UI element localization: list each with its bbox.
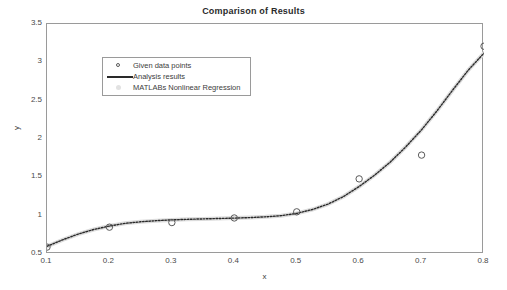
- x-tick-label: 0.7: [401, 257, 441, 265]
- x-tick-label: 0.5: [276, 257, 316, 265]
- faint-dot-marker-icon: [107, 82, 133, 93]
- legend-item-given-data-points[interactable]: Given data points: [103, 60, 250, 71]
- y-tick-label: 2.5: [8, 96, 42, 104]
- y-axis-tick-labels: 0.511.522.533.5: [4, 23, 42, 253]
- y-axis-label: y: [12, 126, 21, 130]
- x-tick-label: 0.4: [213, 257, 253, 265]
- y-tick-label: 1.5: [8, 172, 42, 180]
- circle-marker-icon: [107, 60, 133, 71]
- y-tick-label: 0.5: [8, 249, 42, 257]
- x-tick-label: 0.1: [26, 257, 66, 265]
- y-tick-label: 3.5: [8, 19, 42, 27]
- data-point-marker[interactable]: [418, 152, 424, 158]
- plot-area[interactable]: Given data points Analysis results MATLA…: [46, 23, 483, 253]
- y-tick-label: 3: [8, 57, 42, 65]
- legend-label-1: Analysis results: [133, 71, 185, 82]
- chart-title: Comparison of Results: [0, 6, 507, 16]
- data-point-marker[interactable]: [481, 43, 484, 49]
- x-tick-label: 0.2: [88, 257, 128, 265]
- data-point-marker[interactable]: [356, 176, 362, 182]
- y-tick-label: 1: [8, 211, 42, 219]
- legend-label-2: MATLABs Nonlinear Regression: [133, 82, 240, 93]
- x-axis-label: x: [46, 272, 483, 281]
- x-tick-label: 0.8: [463, 257, 503, 265]
- line-marker-icon: [107, 71, 133, 82]
- x-tick-label: 0.3: [151, 257, 191, 265]
- x-tick-label: 0.6: [338, 257, 378, 265]
- legend-item-matlab-nonlinear-regression[interactable]: MATLABs Nonlinear Regression: [103, 82, 250, 93]
- figure-canvas: Comparison of Results 0.511.522.533.5 y …: [0, 0, 507, 290]
- y-tick-label: 2: [8, 134, 42, 142]
- legend-item-analysis-results[interactable]: Analysis results: [103, 71, 250, 82]
- x-axis-tick-labels: 0.10.20.30.40.50.60.70.8: [46, 257, 483, 271]
- legend-label-0: Given data points: [133, 60, 191, 71]
- legend-box[interactable]: Given data points Analysis results MATLA…: [102, 57, 251, 96]
